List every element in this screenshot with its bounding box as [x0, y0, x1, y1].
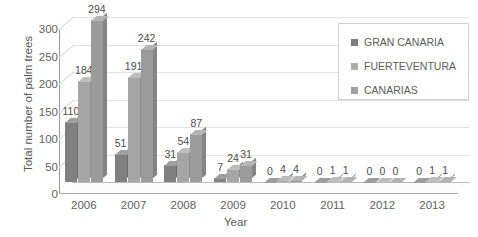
bar-side	[103, 13, 107, 178]
y-tick-label: 0	[24, 189, 58, 199]
legend-label: FUERTEVENTURA	[364, 60, 456, 72]
bar[interactable]	[78, 81, 90, 182]
x-axis-line	[59, 193, 458, 194]
bar-side	[202, 127, 206, 178]
legend-label: GRAN CANARIA	[364, 36, 444, 48]
legend-label: CANARIAS	[364, 84, 418, 96]
legend-swatch-icon	[351, 39, 358, 46]
y-tick-label: 150	[24, 107, 58, 117]
x-tick-label: 2012	[354, 199, 410, 211]
bar[interactable]	[164, 165, 176, 182]
bar-group	[164, 181, 207, 182]
x-tick-label: 2008	[155, 199, 211, 211]
bar-face	[190, 134, 202, 182]
legend-swatch-icon	[351, 87, 358, 94]
x-tick-label: 2006	[56, 199, 112, 211]
y-tick-label: 100	[24, 134, 58, 144]
gridline	[72, 17, 470, 18]
y-tick-label: 250	[24, 52, 58, 62]
bar-group	[314, 181, 357, 182]
bar[interactable]	[177, 152, 189, 182]
bar-face	[177, 152, 189, 182]
bar-data-label: 0	[384, 166, 406, 177]
bar[interactable]	[290, 180, 302, 182]
bar[interactable]	[439, 181, 451, 182]
bar[interactable]	[240, 165, 252, 182]
y-tick-label: 300	[24, 24, 58, 34]
bar[interactable]	[214, 178, 226, 182]
chart-legend: GRAN CANARIAFUERTEVENTURACANARIAS	[338, 23, 469, 100]
bar[interactable]	[277, 180, 289, 182]
bar-face	[115, 154, 127, 182]
bar-group	[65, 181, 108, 182]
bar-face	[78, 81, 90, 182]
bar-face	[91, 20, 103, 182]
bar-face	[164, 165, 176, 182]
y-tick-label: 50	[24, 162, 58, 172]
bar[interactable]	[426, 181, 438, 182]
legend-swatch-icon	[351, 63, 358, 70]
bar-group	[413, 181, 456, 182]
bar-side	[153, 42, 157, 178]
bar-face	[240, 165, 252, 182]
bar-chart: Total number of palm trees 0501001502002…	[0, 0, 478, 237]
x-tick-label: 2007	[106, 199, 162, 211]
bar-face	[227, 169, 239, 182]
bar-face	[128, 77, 140, 182]
bar-group	[264, 181, 307, 182]
bar[interactable]	[65, 122, 77, 183]
bar-group	[363, 181, 406, 182]
bar[interactable]	[327, 181, 339, 182]
x-axis-title: Year	[224, 216, 247, 228]
bar-face	[141, 49, 153, 182]
bar-group	[115, 181, 158, 182]
bar[interactable]	[128, 77, 140, 182]
bar[interactable]	[340, 181, 352, 182]
x-tick-label: 2009	[205, 199, 261, 211]
bar-group	[214, 181, 257, 182]
bar[interactable]	[141, 49, 153, 182]
x-tick-label: 2013	[404, 199, 460, 211]
x-tick-label: 2010	[255, 199, 311, 211]
bar[interactable]	[91, 20, 103, 182]
x-tick-label: 2011	[305, 199, 361, 211]
bar[interactable]	[115, 154, 127, 182]
bar[interactable]	[190, 134, 202, 182]
bar-face	[65, 122, 77, 183]
legend-item[interactable]: CANARIAS	[351, 84, 418, 96]
legend-item[interactable]: GRAN CANARIA	[351, 36, 444, 48]
y-axis-tick-labels: 050100150200250300	[22, 0, 58, 237]
bar[interactable]	[227, 169, 239, 182]
legend-item[interactable]: FUERTEVENTURA	[351, 60, 456, 72]
y-tick-label: 200	[24, 79, 58, 89]
